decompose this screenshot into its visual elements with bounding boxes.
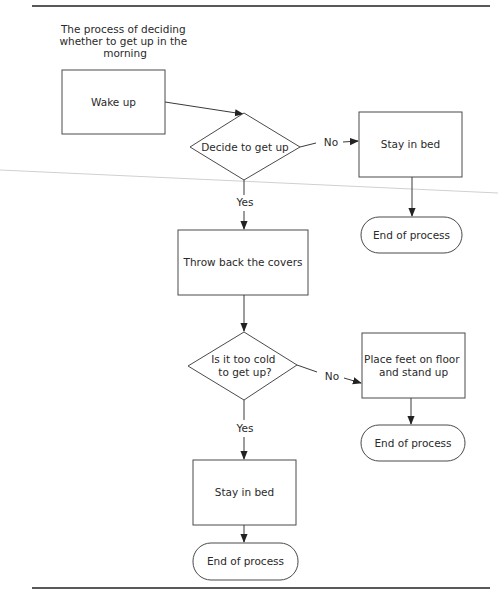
edge-cold-no-line xyxy=(297,365,317,372)
node-label: Throw back the covers xyxy=(182,256,302,268)
edge-wake-to-decide xyxy=(165,102,243,114)
edge-decide-no-arrow xyxy=(343,141,358,142)
node-label: End of process xyxy=(374,437,451,449)
node-label: End of process xyxy=(207,555,284,567)
node-decide-to-get-up: Decide to get up xyxy=(190,113,300,180)
node-stay-in-bed-1: Stay in bed xyxy=(359,112,462,177)
node-wake-up: Wake up xyxy=(62,70,165,134)
node-too-cold: Is it too cold to get up? xyxy=(188,332,297,400)
edge-label-yes: Yes xyxy=(236,196,254,208)
node-stay-in-bed-2: Stay in bed xyxy=(193,460,296,525)
node-place-feet: Place feet on floor and stand up xyxy=(362,333,465,398)
node-throw-back-covers: Throw back the covers xyxy=(178,230,308,295)
edge-cold-no-arrow xyxy=(344,378,361,383)
node-label: Stay in bed xyxy=(381,138,440,150)
edge-label-no: No xyxy=(325,370,339,382)
node-label: End of process xyxy=(373,229,450,241)
flowchart: The process of deciding whether to get u… xyxy=(0,0,498,602)
diagram-title: The process of deciding whether to get u… xyxy=(59,23,190,59)
node-end-of-process-1: End of process xyxy=(361,217,462,253)
node-label: Is it too cold to get up? xyxy=(211,353,279,378)
node-label: Stay in bed xyxy=(215,486,274,498)
edge-label-yes: Yes xyxy=(236,422,254,434)
node-label: Decide to get up xyxy=(201,141,289,153)
node-end-of-process-3: End of process xyxy=(193,543,298,580)
node-end-of-process-2: End of process xyxy=(361,425,465,461)
edge-label-no: No xyxy=(324,136,338,148)
edge-decide-no-line xyxy=(300,143,316,147)
node-label: Wake up xyxy=(91,96,136,108)
